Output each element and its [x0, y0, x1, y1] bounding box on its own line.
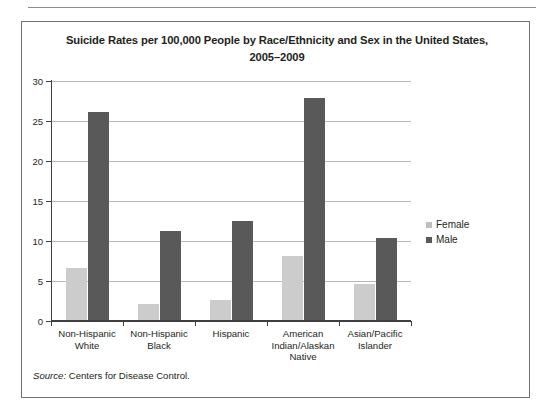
legend-swatch-icon — [426, 237, 432, 243]
bar-female-4 — [282, 256, 303, 320]
x-axis-tick-mark — [51, 321, 52, 326]
x-axis-line — [51, 320, 411, 322]
y-axis-tick-label: 10 — [23, 237, 43, 246]
source-keyword: Source: — [33, 370, 66, 381]
bar-female-2 — [138, 304, 159, 320]
bar-male-5 — [376, 238, 397, 320]
legend-label: Male — [436, 234, 458, 245]
plot-area: 051015202530 — [51, 81, 411, 321]
figure-container: Suicide Rates per 100,000 People by Race… — [21, 21, 530, 398]
x-axis-tick-mark — [339, 321, 340, 326]
legend-swatch-icon — [426, 222, 432, 228]
y-axis-line — [51, 80, 52, 321]
y-axis-tick-label: 5 — [23, 277, 43, 286]
x-axis-tick-mark — [267, 321, 268, 326]
bar-male-4 — [304, 98, 325, 320]
bar-female-1 — [66, 268, 87, 320]
legend-label: Female — [436, 219, 469, 230]
category-label-line-2: Islander — [333, 340, 417, 352]
page-divider-rule — [28, 7, 536, 8]
x-axis-category-label: Asian/PacificIslander — [333, 328, 417, 351]
chart-title-line-2: 2005–2009 — [52, 49, 502, 66]
y-axis-tick-label: 30 — [23, 77, 43, 86]
bar-female-3 — [210, 300, 231, 320]
chart-title: Suicide Rates per 100,000 People by Race… — [52, 32, 502, 66]
chart-legend: FemaleMale — [426, 217, 516, 247]
x-axis-tick-mark — [195, 321, 196, 326]
bar-female-5 — [354, 284, 375, 320]
category-label-line-2: Black — [117, 340, 201, 352]
x-axis-tick-mark — [411, 321, 412, 326]
gridline — [51, 81, 411, 82]
y-axis-tick-label: 15 — [23, 197, 43, 206]
y-axis-tick-label: 25 — [23, 117, 43, 126]
source-note: Source: Centers for Disease Control. — [33, 370, 190, 381]
bar-male-2 — [160, 231, 181, 320]
source-text: Centers for Disease Control. — [66, 370, 190, 381]
bar-male-1 — [88, 112, 109, 320]
legend-item-female[interactable]: Female — [426, 217, 516, 232]
legend-item-male[interactable]: Male — [426, 232, 516, 247]
chart-title-line-1: Suicide Rates per 100,000 People by Race… — [52, 32, 502, 49]
y-axis-tick-label: 20 — [23, 157, 43, 166]
category-label-line-1: Asian/Pacific — [333, 328, 417, 340]
category-label-line-3: Native — [261, 351, 345, 363]
x-axis-tick-mark — [123, 321, 124, 326]
y-axis-tick-label: 0 — [23, 317, 43, 326]
bar-male-3 — [232, 221, 253, 320]
